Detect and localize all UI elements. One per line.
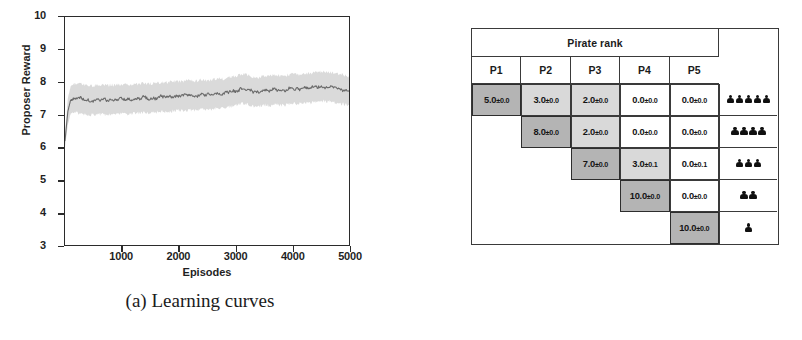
table-row: 10.0±0.0 — [472, 212, 777, 244]
cell-std: ±0.0 — [595, 96, 608, 105]
cell-std: ±0.0 — [595, 128, 608, 137]
table-group-header: Pirate rank — [472, 29, 719, 57]
cell-std: ±0.0 — [546, 128, 559, 137]
cell-std: ±0.0 — [644, 128, 657, 137]
table-cell-p4-r3: 3.0±0.1 — [620, 148, 669, 180]
panel-learning-curves: Proposer Reward 345678910 10002000300040… — [0, 0, 400, 340]
cell-value: 0.0 — [682, 191, 694, 201]
table-cell-empty — [472, 212, 521, 244]
table-cell-p2-r1: 3.0±0.0 — [521, 84, 570, 116]
column-header-p2: P2 — [521, 57, 570, 83]
x-tick-mark-1000 — [121, 246, 122, 252]
table-cell-empty — [472, 180, 521, 212]
cell-value: 2.0 — [583, 127, 595, 137]
pirate-icon — [762, 94, 771, 105]
cell-std: ±0.0 — [647, 192, 660, 201]
x-axis-label: Episodes — [64, 266, 350, 278]
x-tick-mark-3000 — [236, 246, 237, 252]
table-row: 7.0±0.03.0±0.10.0±0.1 — [472, 148, 777, 180]
cell-std: ±0.1 — [694, 160, 707, 169]
table-cell-empty — [620, 212, 669, 244]
cell-value: 10.0 — [679, 223, 696, 233]
y-tick-label-6: 6 — [12, 140, 46, 152]
table-cell-empty — [472, 148, 521, 180]
pirate-icon — [735, 158, 744, 169]
cell-value: 7.0 — [583, 159, 595, 169]
cell-value: 0.0 — [632, 95, 644, 105]
pirate-count-cell — [719, 84, 777, 116]
cell-std: ±0.0 — [694, 128, 707, 137]
table-cell-p3-r3: 7.0±0.0 — [571, 148, 620, 180]
table-cell-empty — [521, 180, 570, 212]
pirate-count-cell — [719, 180, 777, 212]
cell-value: 0.0 — [682, 95, 694, 105]
pirate-icon — [744, 158, 753, 169]
table-cell-empty — [521, 148, 570, 180]
table-cell-p5-r4: 0.0±0.0 — [670, 180, 719, 212]
table-cell-p1-r1: 5.0±0.0 — [472, 84, 521, 116]
table-column-headers: P1P2P3P4P5 — [472, 57, 719, 84]
pirate-icon — [744, 223, 753, 234]
cell-value: 2.0 — [583, 95, 595, 105]
column-header-p5: P5 — [670, 57, 719, 83]
y-tick-label-3: 3 — [12, 239, 46, 251]
table-cell-p5-r3: 0.0±0.1 — [670, 148, 719, 180]
table-cell-p4-r1: 0.0±0.0 — [620, 84, 669, 116]
pirate-icon — [731, 126, 740, 137]
table-cell-p3-r2: 2.0±0.0 — [571, 116, 620, 148]
cell-std: ±0.0 — [595, 160, 608, 169]
pirate-icon — [740, 126, 749, 137]
panel-learned-distribution: Pirate rank P1P2P3P4P5 5.0±0.03.0±0.02.0… — [450, 0, 802, 340]
pirate-count-cell — [719, 148, 777, 180]
cell-value: 3.0 — [533, 95, 545, 105]
table-cell-p5-r1: 0.0±0.0 — [670, 84, 719, 116]
cell-std: ±0.0 — [694, 192, 707, 201]
table-cell-empty — [521, 212, 570, 244]
table-group-header-blank — [719, 29, 777, 57]
table-row: 8.0±0.02.0±0.00.0±0.00.0±0.0 — [472, 116, 777, 148]
learning-curve-svg — [65, 17, 349, 245]
table-cell-p4-r4: 10.0±0.0 — [620, 180, 669, 212]
cell-std: ±0.0 — [546, 96, 559, 105]
cell-std: ±0.1 — [644, 160, 657, 169]
cell-value: 0.0 — [682, 127, 694, 137]
pirate-icon — [735, 94, 744, 105]
table-row: 5.0±0.03.0±0.02.0±0.00.0±0.00.0±0.0 — [472, 84, 777, 116]
figure-container: Proposer Reward 345678910 10002000300040… — [0, 0, 802, 340]
cell-std: ±0.0 — [696, 224, 709, 233]
confidence-band — [65, 70, 349, 147]
table-cell-empty — [472, 116, 521, 148]
y-tick-label-7: 7 — [12, 108, 46, 120]
pirate-icon — [749, 126, 758, 137]
column-header-p1: P1 — [472, 57, 521, 83]
cell-value: 5.0 — [484, 95, 496, 105]
table-cell-empty — [571, 180, 620, 212]
y-tick-label-10: 10 — [12, 9, 46, 21]
cell-value: 3.0 — [632, 159, 644, 169]
x-tick-mark-5000 — [350, 246, 351, 252]
cell-std: ±0.0 — [644, 96, 657, 105]
table-cell-p2-r2: 8.0±0.0 — [521, 116, 570, 148]
table-cell-p5-r5: 10.0±0.0 — [670, 212, 719, 244]
pirate-icon — [749, 190, 758, 201]
cell-value: 10.0 — [630, 191, 647, 201]
column-header-p3: P3 — [571, 57, 620, 83]
plot-area — [64, 16, 350, 246]
cell-std: ±0.0 — [694, 96, 707, 105]
pirate-count-cell — [719, 212, 777, 244]
cell-std: ±0.0 — [496, 96, 509, 105]
x-tick-mark-4000 — [293, 246, 294, 252]
pirate-icon — [753, 158, 762, 169]
table-cell-p3-r1: 2.0±0.0 — [571, 84, 620, 116]
pirate-icon — [740, 190, 749, 201]
y-tick-label-5: 5 — [12, 173, 46, 185]
cell-value: 0.0 — [632, 127, 644, 137]
table-cell-p5-r2: 0.0±0.0 — [670, 116, 719, 148]
pirate-count-cell — [719, 116, 777, 148]
table-cell-p4-r2: 0.0±0.0 — [620, 116, 669, 148]
pirate-icon — [758, 126, 767, 137]
y-tick-label-4: 4 — [12, 206, 46, 218]
cell-value: 8.0 — [533, 127, 545, 137]
column-header-p4: P4 — [620, 57, 669, 83]
caption-panel-a: (a) Learning curves — [0, 290, 400, 312]
